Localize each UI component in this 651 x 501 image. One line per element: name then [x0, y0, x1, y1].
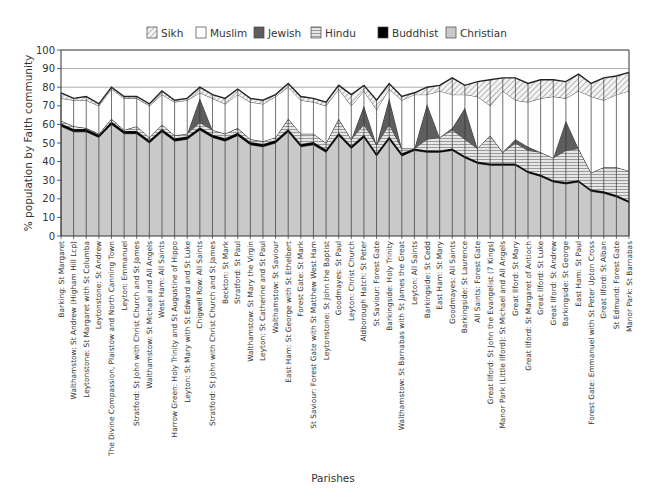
- x-tick-label: Stratford: St John with Christ Church an…: [208, 241, 217, 426]
- x-tick-label: Leytonstone: St John the Baptist: [322, 241, 331, 360]
- legend-swatch-horizontal-lines: [311, 27, 321, 38]
- legend-item-muslim: Muslim: [196, 27, 247, 39]
- x-tick-label: West Ham: All Saints: [157, 241, 166, 318]
- y-tick-label: 50: [42, 138, 55, 149]
- legend-item-buddhist: Buddhist: [378, 27, 438, 39]
- y-tick-label: 60: [42, 119, 55, 130]
- x-tick-label: Forest Gate: St Mark: [296, 240, 305, 316]
- y-tick-label: 90: [42, 63, 55, 74]
- x-tick-label: Walthamstow: St Michael and All Angels: [145, 241, 154, 389]
- x-tick-label: Stratford: St John with Christ Church an…: [132, 241, 141, 426]
- x-tick-label: St Saviour: Forest Gate: [372, 241, 381, 327]
- x-tick-label: Walthamstow: St Andrew (Higham Hill Lcp): [69, 241, 78, 400]
- x-tick-label: Leytonstone: St Margaret with St Columba: [82, 241, 91, 398]
- y-tick-label: 20: [42, 193, 55, 204]
- x-tick-label: St Edmund: Forest Gate: [612, 241, 621, 330]
- x-axis-title: Parishes: [311, 472, 355, 484]
- x-tick-label: Stratford: St Paul: [233, 241, 242, 304]
- legend-label: Muslim: [210, 27, 247, 39]
- x-axis-labels: Barking: St MargaretWalthamstow: St Andr…: [57, 240, 634, 457]
- legend-label: Sikh: [161, 27, 183, 39]
- x-tick-label: Barkingside: Holy Trinity: [385, 240, 394, 330]
- x-tick-label: East Ham: St Mary: [435, 240, 444, 309]
- y-tick-label: 0: [49, 231, 55, 242]
- x-tick-label: Barking: St Margaret: [57, 241, 66, 318]
- x-tick-label: Goodmayes: All Saints: [448, 241, 457, 324]
- y-tick-label: 40: [42, 156, 55, 167]
- x-tick-label: Leyton: Emmanuel: [120, 241, 129, 310]
- x-tick-label: Leyton: St Catherine and St Paul: [258, 241, 267, 361]
- x-tick-label: Goodmayes: St Paul: [334, 241, 343, 315]
- legend-item-sikh: Sikh: [147, 27, 183, 39]
- x-tick-label: Forest Gate: Emmanuel with St Peter Upto…: [587, 241, 596, 425]
- y-axis-title: % population by Faith community: [22, 55, 34, 232]
- legend-label: Buddhist: [392, 27, 438, 39]
- x-tick-label: Great Ilford: St Mary: [511, 240, 520, 316]
- x-tick-label: Barkingside: St Laurence: [460, 241, 469, 334]
- legend-label: Christian: [460, 27, 507, 39]
- x-tick-label: Manor Park: St Barnabas: [625, 241, 634, 332]
- y-tick-label: 10: [42, 212, 55, 223]
- x-tick-label: Chigwell Row: All Saints: [195, 241, 204, 329]
- x-tick-label: Great Ilford: St John the Evangelist (7 …: [486, 241, 495, 404]
- y-tick-label: 70: [42, 100, 55, 111]
- x-tick-label: Harrow Green: Holy Trinity and St August…: [170, 241, 179, 438]
- legend-swatch-dark-grey: [254, 27, 264, 38]
- x-tick-label: All Saints: Forest Gate: [473, 241, 482, 323]
- x-tick-label: St Saviour: Forest Gate with St Matthew …: [309, 241, 318, 429]
- legend-label: Jewish: [267, 27, 301, 39]
- x-tick-label: Great Ilford: St Andrew: [549, 241, 558, 326]
- legend-item-christian: Christian: [446, 27, 507, 39]
- x-tick-label: Leytonstone: St Andrew: [94, 241, 103, 329]
- x-tick-label: Beckton: St Mark: [221, 240, 230, 304]
- stacked-area-chart: SikhMuslimJewishHinduBuddhistChristian 0…: [0, 0, 651, 501]
- y-tick-label: 30: [42, 175, 55, 186]
- legend-swatch-diagonal-hatch: [147, 27, 157, 38]
- y-tick-label: 100: [36, 45, 55, 56]
- x-tick-label: Walthamstow: St Barnabas with St James t…: [397, 241, 406, 430]
- x-tick-label: Walthamstow: St Mary the Virgin: [246, 241, 255, 362]
- stacked-areas: [61, 72, 629, 236]
- x-tick-label: The Divine Compassion, Plaistow and Nort…: [107, 241, 116, 457]
- x-tick-label: East Ham: St George with St Ethelbert: [284, 241, 293, 383]
- legend-swatch-black: [378, 27, 388, 38]
- x-tick-label: East Ham: St Paul: [574, 241, 583, 307]
- legend-label: Hindu: [325, 27, 356, 39]
- legend-item-jewish: Jewish: [254, 27, 301, 39]
- legend-swatch-white: [196, 27, 206, 38]
- legend-swatch-light-grey: [446, 27, 456, 38]
- x-tick-label: Great Ilford: St Luke: [536, 241, 545, 315]
- x-tick-label: Leyton: All Saints: [410, 241, 419, 305]
- x-tick-label: Great Ilford: St Margaret of Antioch: [524, 241, 533, 371]
- x-tick-label: Leyton: St Mary with St Edward and St Lu…: [183, 241, 192, 403]
- x-tick-label: Great Ilford: St Alban: [599, 241, 608, 319]
- legend-item-hindu: Hindu: [311, 27, 356, 39]
- x-tick-label: Manor Park (Little Ilford): St Michael a…: [498, 241, 507, 429]
- x-tick-label: Aldborough Hatch: St Peter: [359, 240, 368, 342]
- x-tick-label: Walthamstow: St Saviour: [271, 240, 280, 333]
- x-tick-label: Leyton: Christ Church: [347, 241, 356, 321]
- chart-legend: SikhMuslimJewishHinduBuddhistChristian: [147, 27, 507, 39]
- y-tick-label: 80: [42, 82, 55, 93]
- x-tick-label: Barkingside: St George: [561, 241, 570, 327]
- x-tick-label: Barkingside: St Cedd: [423, 241, 432, 319]
